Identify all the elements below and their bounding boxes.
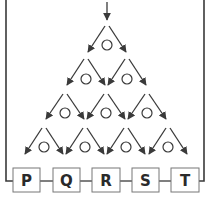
peg-circle-icon bbox=[122, 74, 132, 84]
peg-circle-icon bbox=[101, 108, 111, 118]
peg-circle-icon bbox=[60, 108, 70, 118]
bin-label: Q bbox=[60, 172, 73, 190]
bin-t: T bbox=[171, 168, 199, 192]
bin-label: R bbox=[100, 172, 112, 190]
bin-label: T bbox=[180, 172, 191, 190]
pegs bbox=[39, 40, 173, 152]
frame-right bbox=[199, 0, 204, 181]
galton-board-diagram: PQRST bbox=[0, 0, 208, 199]
peg-circle-icon bbox=[121, 142, 131, 152]
arrows bbox=[25, 2, 187, 154]
frame-left bbox=[6, 0, 13, 181]
bins: PQRST bbox=[13, 168, 199, 192]
bin-label: S bbox=[140, 172, 151, 190]
bin-q: Q bbox=[53, 168, 80, 192]
peg-circle-icon bbox=[80, 142, 90, 152]
bin-label: P bbox=[21, 172, 32, 190]
peg-circle-icon bbox=[163, 142, 173, 152]
bin-s: S bbox=[132, 168, 159, 192]
peg-circle-icon bbox=[142, 108, 152, 118]
peg-circle-icon bbox=[81, 74, 91, 84]
bin-p: P bbox=[13, 168, 40, 192]
peg-circle-icon bbox=[102, 40, 112, 50]
peg-circle-icon bbox=[39, 142, 49, 152]
bin-r: R bbox=[92, 168, 120, 192]
